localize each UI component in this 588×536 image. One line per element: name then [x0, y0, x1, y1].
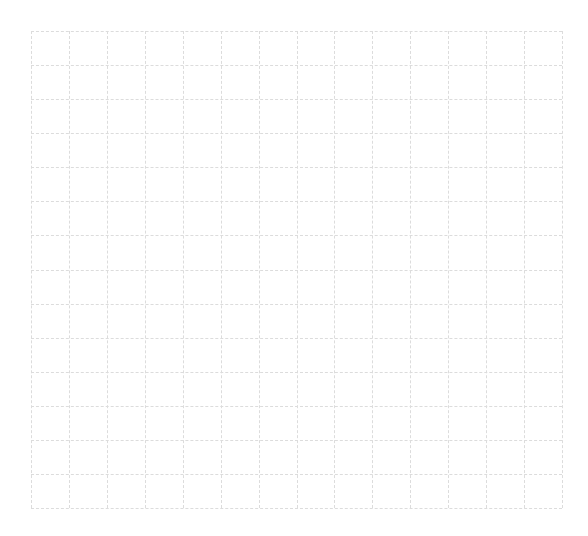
figure-canvas [0, 0, 588, 536]
plot-interior[interactable] [31, 31, 562, 508]
grid-line-vertical [562, 31, 563, 508]
grid-line-horizontal [31, 508, 562, 509]
grid-area [31, 31, 562, 508]
